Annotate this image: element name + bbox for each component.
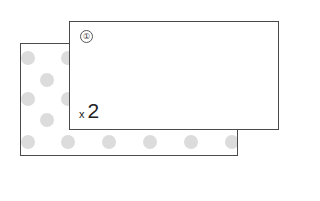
dot <box>102 135 116 149</box>
dot <box>225 135 238 149</box>
dot <box>21 135 35 149</box>
dot <box>40 113 54 127</box>
index-marker: ① <box>80 30 93 43</box>
dot <box>143 135 157 149</box>
dot <box>61 135 75 149</box>
dot <box>21 51 35 65</box>
front-card: ① x2 <box>69 21 279 130</box>
quantity-value: 2 <box>88 99 100 122</box>
dot <box>21 92 35 106</box>
dot <box>184 135 198 149</box>
quantity-label: x2 <box>79 99 99 123</box>
quantity-prefix: x <box>79 108 85 120</box>
dot <box>40 73 54 87</box>
